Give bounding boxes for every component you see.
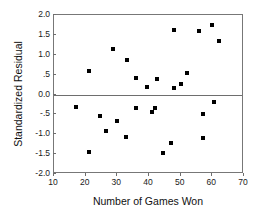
data-point [172, 28, 176, 32]
data-point [201, 136, 205, 140]
x-tick-mark [180, 173, 181, 176]
y-tick-mark [53, 34, 56, 35]
x-tick-label: 70 [228, 177, 258, 187]
data-point [74, 105, 78, 109]
data-point [155, 77, 159, 81]
y-tick-label: -.5 [20, 108, 50, 118]
plot-area [53, 14, 243, 173]
data-point [197, 29, 201, 33]
x-tick-mark [85, 173, 86, 176]
data-point [111, 47, 115, 51]
data-point [115, 119, 119, 123]
data-point [169, 141, 173, 145]
y-tick-label: -1.0 [20, 128, 50, 138]
data-point [87, 150, 91, 154]
y-tick-label: 1.0 [20, 49, 50, 59]
data-point [212, 100, 216, 104]
y-axis-tick-labels: 2.01.51.0.50.0-.5-1.0-1.5-2.0 [18, 14, 50, 173]
data-point [145, 85, 149, 89]
x-tick-label: 40 [133, 177, 163, 187]
x-tick-mark [211, 173, 212, 176]
x-tick-label: 60 [196, 177, 226, 187]
y-tick-mark [53, 74, 56, 75]
x-tick-label: 50 [165, 177, 195, 187]
x-tick-label: 30 [101, 177, 131, 187]
data-point [185, 71, 189, 75]
x-tick-mark [53, 173, 54, 176]
data-point [161, 151, 165, 155]
data-point [98, 114, 102, 118]
y-tick-label: -1.5 [20, 148, 50, 158]
data-point [172, 86, 176, 90]
zero-reference-line [54, 95, 242, 96]
y-tick-mark [53, 133, 56, 134]
y-tick-mark [53, 153, 56, 154]
data-point [210, 23, 214, 27]
x-tick-mark [243, 173, 244, 176]
scatter-chart: Standardized Residual 2.01.51.0.50.0-.5-… [0, 0, 262, 217]
data-point [87, 69, 91, 73]
data-point [150, 110, 154, 114]
y-tick-mark [53, 94, 56, 95]
data-point [124, 135, 128, 139]
y-tick-mark [53, 54, 56, 55]
y-tick-label: 1.5 [20, 29, 50, 39]
y-tick-mark [53, 113, 56, 114]
data-point [153, 106, 157, 110]
data-point [104, 129, 108, 133]
x-tick-label: 10 [38, 177, 68, 187]
data-point [125, 58, 129, 62]
y-tick-label: .5 [20, 69, 50, 79]
x-axis-title: Number of Games Won [53, 195, 243, 207]
x-tick-mark [116, 173, 117, 176]
y-tick-label: 2.0 [20, 9, 50, 19]
data-point [134, 106, 138, 110]
y-tick-label: 0.0 [20, 89, 50, 99]
data-point [179, 82, 183, 86]
data-point [217, 39, 221, 43]
data-point [134, 76, 138, 80]
data-point [201, 112, 205, 116]
y-tick-mark [53, 14, 56, 15]
x-tick-mark [148, 173, 149, 176]
x-tick-label: 20 [70, 177, 100, 187]
